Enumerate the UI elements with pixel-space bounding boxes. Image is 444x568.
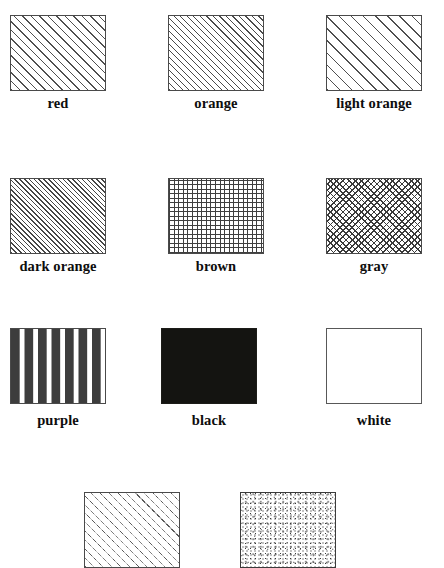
legend-entry: brown <box>168 178 264 254</box>
pattern-swatch <box>168 178 264 254</box>
pattern-swatch <box>326 15 422 91</box>
legend-entry: dark orange <box>10 178 106 254</box>
pattern-swatch <box>168 15 264 91</box>
legend-entry <box>84 492 180 568</box>
legend-entry <box>240 492 336 568</box>
swatch-label: gray <box>286 258 444 275</box>
swatch-label: dark orange <box>0 258 146 275</box>
pattern-swatch <box>326 178 422 254</box>
swatch-label: brown <box>128 258 304 275</box>
legend-entry: purple <box>10 328 106 404</box>
pattern-swatch <box>84 492 180 568</box>
legend-entry: orange <box>168 15 264 91</box>
legend-entry: black <box>161 328 257 404</box>
legend-entry: red <box>10 15 106 91</box>
pattern-swatch <box>10 178 106 254</box>
legend-entry: light orange <box>326 15 422 91</box>
pattern-swatch <box>10 15 106 91</box>
swatch-label: orange <box>128 95 304 112</box>
pattern-swatch <box>10 328 106 404</box>
swatch-label: black <box>121 412 297 429</box>
legend-entry: gray <box>326 178 422 254</box>
swatch-label: light orange <box>286 95 444 112</box>
swatch-label: white <box>286 412 444 429</box>
pattern-swatch <box>240 492 336 568</box>
legend-entry: white <box>326 328 422 404</box>
swatch-label: red <box>0 95 146 112</box>
pattern-swatch <box>326 328 422 404</box>
pattern-swatch <box>161 328 257 404</box>
